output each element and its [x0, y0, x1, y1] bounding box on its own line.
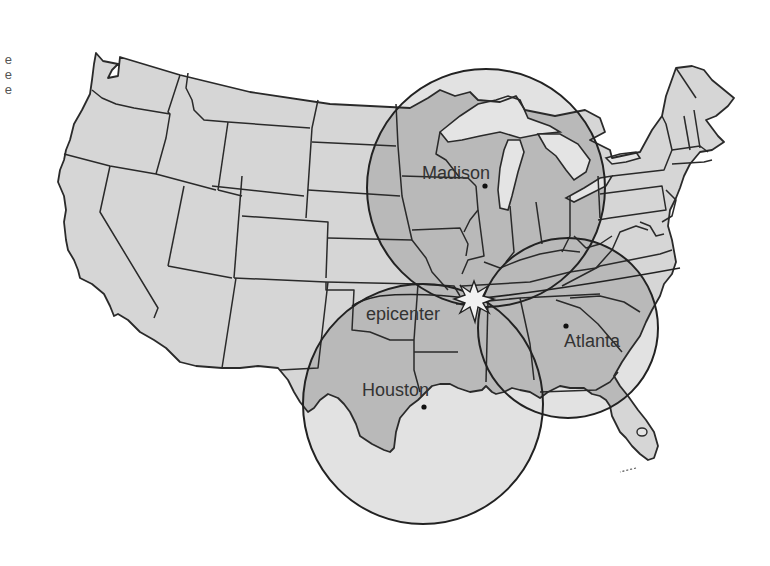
lake-okeechobee [637, 428, 647, 436]
cropped-text-line: e [0, 82, 12, 97]
houston-dot [421, 404, 426, 409]
map-figure: e e e [0, 0, 770, 566]
us-map: Madison Atlanta Houston epicenter [0, 0, 770, 566]
epicenter-label: epicenter [366, 304, 440, 324]
cropped-side-text: e e e [0, 52, 12, 97]
cropped-text-line: e [0, 67, 12, 82]
houston-label: Houston [362, 380, 429, 400]
atlanta-dot [563, 323, 568, 328]
madison-label: Madison [422, 163, 490, 183]
cropped-text-line: e [0, 52, 12, 67]
florida-keys [620, 468, 636, 472]
atlanta-label: Atlanta [564, 331, 621, 351]
madison-dot [482, 183, 487, 188]
